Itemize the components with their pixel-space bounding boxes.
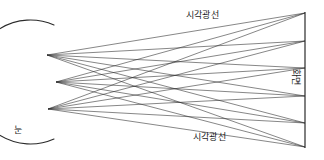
visual-ray-1-3 [56, 82, 305, 96]
label-screen: 화면 [290, 69, 303, 85]
visual-rays-group [47, 13, 305, 147]
eye-outline [0, 20, 54, 144]
visual-ray-1-1 [56, 41, 305, 82]
visual-ray-2-1 [48, 41, 305, 109]
label-visual-rays-bottom: 시각광선 [193, 130, 226, 143]
visual-ray-2-3 [48, 96, 305, 109]
visual-ray-2-2 [48, 68, 305, 109]
label-eye: 눈 [14, 123, 22, 136]
visual-ray-0-1 [47, 41, 305, 55]
visual-ray-2-5 [48, 109, 305, 147]
visual-ray-1-2 [56, 68, 305, 82]
label-visual-rays-top: 시각광선 [186, 8, 219, 21]
diagram-canvas [0, 0, 324, 160]
visual-ray-2-4 [48, 109, 305, 123]
visual-ray-diagram: 시각광선 시각광선 눈 화면 [0, 0, 324, 160]
visual-ray-0-5 [47, 55, 305, 147]
